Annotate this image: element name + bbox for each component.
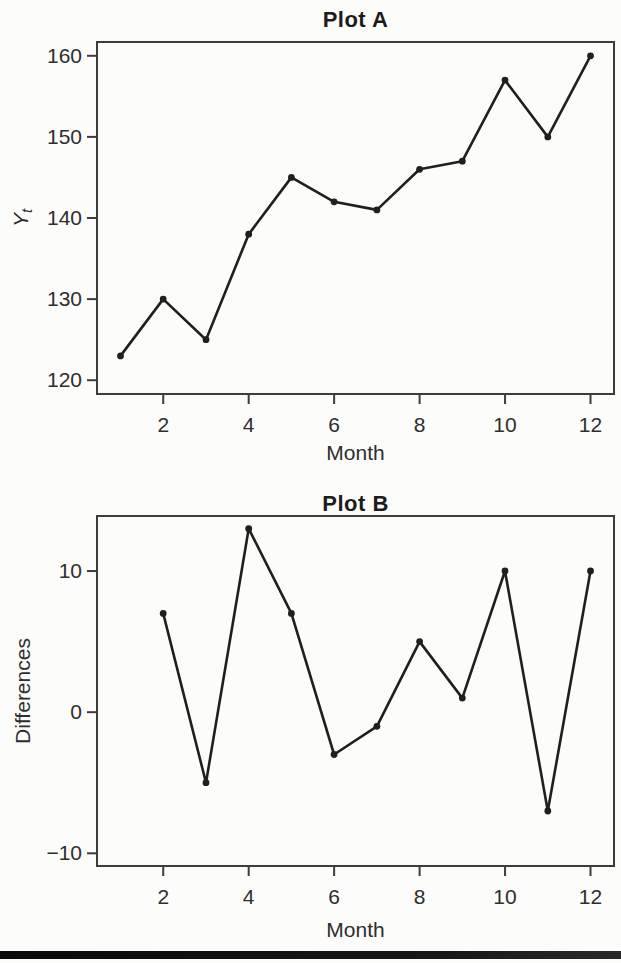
data-point — [160, 296, 167, 303]
y-tick-label: −10 — [46, 841, 82, 864]
y-tick-label: 120 — [47, 368, 82, 391]
x-tick-label: 2 — [157, 413, 169, 436]
y-tick-label: 0 — [70, 700, 82, 723]
data-point — [203, 779, 210, 786]
y-tick-label: 130 — [47, 287, 82, 310]
plot-a-figure: Plot A Yt 24681012120130140150160 Month — [0, 0, 621, 475]
plot-a-x-axis-label: Month — [97, 440, 614, 466]
page-bottom-rule — [0, 951, 621, 959]
x-tick-label: 8 — [414, 885, 426, 908]
data-point — [416, 638, 423, 645]
data-point — [331, 751, 338, 758]
y-tick-label: 160 — [47, 44, 82, 67]
x-tick-label: 8 — [414, 413, 426, 436]
x-tick-label: 10 — [493, 885, 516, 908]
x-tick-label: 4 — [243, 413, 255, 436]
data-series-line — [163, 529, 590, 811]
data-point — [331, 198, 338, 205]
y-tick-label: 10 — [59, 559, 82, 582]
scanned-page: Plot A Yt 24681012120130140150160 Month … — [0, 0, 621, 963]
data-point — [416, 166, 423, 173]
data-series-line — [121, 56, 591, 356]
x-tick-label: 6 — [328, 885, 340, 908]
data-point — [203, 336, 210, 343]
data-point — [544, 134, 551, 141]
plot-b-figure: Plot B Differences 24681012−10010 Month — [0, 480, 621, 963]
y-tick-label: 140 — [47, 206, 82, 229]
x-tick-label: 2 — [157, 885, 169, 908]
data-point — [459, 695, 466, 702]
data-point — [587, 568, 594, 575]
plot-frame — [97, 516, 614, 866]
x-tick-label: 12 — [579, 413, 602, 436]
data-point — [502, 77, 509, 84]
plot-b-canvas: 24681012−10010 — [0, 480, 621, 963]
data-point — [245, 231, 252, 238]
data-point — [245, 525, 252, 532]
plot-frame — [97, 42, 614, 394]
data-point — [502, 568, 509, 575]
plot-a-canvas: 24681012120130140150160 — [0, 0, 621, 475]
data-point — [459, 158, 466, 165]
x-tick-label: 6 — [328, 413, 340, 436]
data-point — [374, 723, 381, 730]
data-point — [117, 353, 124, 360]
plot-b-x-axis-label: Month — [97, 917, 614, 943]
data-point — [587, 52, 594, 59]
data-point — [160, 610, 167, 617]
data-point — [288, 610, 295, 617]
x-tick-label: 10 — [493, 413, 516, 436]
x-tick-label: 12 — [579, 885, 602, 908]
data-point — [544, 808, 551, 815]
x-tick-label: 4 — [243, 885, 255, 908]
data-point — [288, 174, 295, 181]
data-point — [374, 207, 381, 214]
y-tick-label: 150 — [47, 125, 82, 148]
